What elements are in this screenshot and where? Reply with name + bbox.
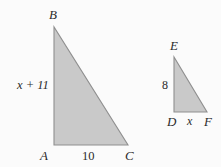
vertex-label-a: A [40, 149, 48, 162]
side-label-x: x [187, 115, 192, 127]
vertex-label-f: F [204, 115, 212, 128]
geometry-figure-canvas: B A C x + 11 10 E D F 8 x [0, 0, 221, 167]
vertex-label-d: D [167, 115, 176, 128]
triangle-abc-shape [54, 27, 128, 145]
side-label-x-plus-11: x + 11 [17, 79, 49, 92]
triangle-def-shape [174, 57, 207, 112]
vertex-label-b: B [49, 8, 57, 21]
vertex-label-c: C [125, 149, 134, 162]
side-label-10: 10 [82, 150, 95, 163]
vertex-label-e: E [170, 39, 178, 52]
side-label-8: 8 [162, 79, 168, 91]
